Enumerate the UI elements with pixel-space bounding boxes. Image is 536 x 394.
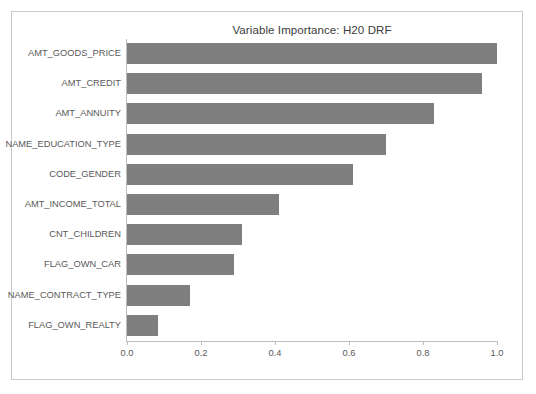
bar bbox=[127, 164, 353, 185]
y-tick-label: NAME_CONTRACT_TYPE bbox=[8, 285, 121, 306]
x-tick-mark bbox=[275, 341, 276, 345]
x-tick-mark bbox=[127, 341, 128, 345]
x-tick-label: 1.0 bbox=[477, 348, 517, 358]
bar bbox=[127, 254, 234, 275]
y-tick-label: AMT_ANNUITY bbox=[55, 103, 121, 124]
bar bbox=[127, 103, 434, 124]
x-axis-spine bbox=[126, 341, 498, 342]
bar bbox=[127, 43, 497, 64]
y-tick-label: NAME_EDUCATION_TYPE bbox=[5, 134, 121, 155]
y-tick-label: AMT_GOODS_PRICE bbox=[28, 43, 121, 64]
bar bbox=[127, 194, 279, 215]
bar-row: FLAG_OWN_REALTY bbox=[127, 311, 497, 341]
bar-row: AMT_GOODS_PRICE bbox=[127, 39, 497, 69]
y-tick-label: AMT_INCOME_TOTAL bbox=[25, 194, 121, 215]
bar bbox=[127, 224, 242, 245]
chart-figure: Variable Importance: H20 DRF AMT_GOODS_P… bbox=[0, 0, 536, 394]
bar bbox=[127, 285, 190, 306]
bar bbox=[127, 134, 386, 155]
bar-row: AMT_ANNUITY bbox=[127, 99, 497, 129]
x-tick-mark bbox=[497, 341, 498, 345]
bar-row: AMT_INCOME_TOTAL bbox=[127, 190, 497, 220]
y-tick-label: FLAG_OWN_REALTY bbox=[28, 315, 121, 336]
y-tick-label: CNT_CHILDREN bbox=[49, 224, 121, 245]
bar bbox=[127, 315, 158, 336]
y-tick-label: CODE_GENDER bbox=[49, 164, 121, 185]
x-tick-label: 0.2 bbox=[181, 348, 221, 358]
bar-row: CODE_GENDER bbox=[127, 160, 497, 190]
x-tick-mark bbox=[349, 341, 350, 345]
bar bbox=[127, 73, 482, 94]
chart-title: Variable Importance: H20 DRF bbox=[127, 24, 497, 36]
y-tick-label: AMT_CREDIT bbox=[62, 73, 121, 94]
x-tick-mark bbox=[201, 341, 202, 345]
bar-row: NAME_CONTRACT_TYPE bbox=[127, 281, 497, 311]
bar-row: CNT_CHILDREN bbox=[127, 220, 497, 250]
bar-row: NAME_EDUCATION_TYPE bbox=[127, 130, 497, 160]
x-tick-mark bbox=[423, 341, 424, 345]
bar-row: FLAG_OWN_CAR bbox=[127, 250, 497, 280]
x-tick-label: 0.0 bbox=[107, 348, 147, 358]
x-tick-label: 0.6 bbox=[329, 348, 369, 358]
x-tick-label: 0.4 bbox=[255, 348, 295, 358]
y-tick-label: FLAG_OWN_CAR bbox=[44, 254, 121, 275]
bar-row: AMT_CREDIT bbox=[127, 69, 497, 99]
x-tick-label: 0.8 bbox=[403, 348, 443, 358]
